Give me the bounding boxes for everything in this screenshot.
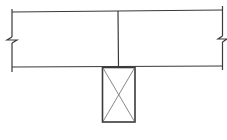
break-line-right-icon	[218, 6, 227, 70]
diagram-canvas	[0, 0, 227, 140]
post	[103, 68, 136, 123]
post-cross-mark-icon	[103, 68, 135, 122]
break-line-left-icon	[7, 9, 17, 72]
beam-joint-line	[118, 11, 119, 67]
beam	[7, 6, 227, 72]
